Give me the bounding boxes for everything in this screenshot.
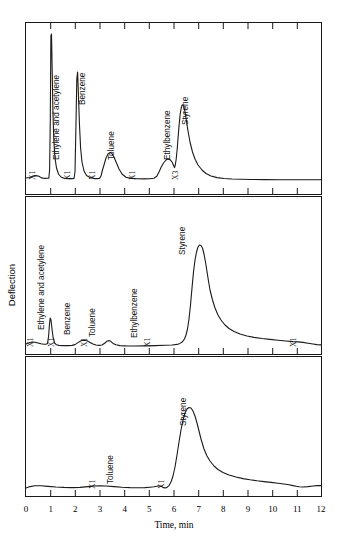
xtick-label: 1 [48, 504, 53, 514]
peak-label-benzene: Benzene [63, 302, 72, 335]
attenuation-label: X1 [157, 480, 166, 489]
xtick-label: 7 [196, 504, 201, 514]
xtick-label: 0 [24, 504, 29, 514]
attenuation-label: X1 [128, 171, 137, 180]
panel-top: Ethylene and acetylene Benzene Toluene E… [26, 23, 322, 195]
xtick-label: 3 [98, 504, 103, 514]
xtick-label: 6 [172, 504, 177, 514]
attenuation-label: X1 [63, 171, 72, 180]
x-axis: 0 1 2 3 4 5 6 7 8 9 10 11 12 Time, min [24, 504, 326, 530]
xtick-label: 11 [293, 504, 302, 514]
panel-bottom-trace [26, 408, 321, 489]
xtick-label: 9 [246, 504, 251, 514]
panel-middle-bottom-ticks [51, 348, 298, 355]
peak-label-ethylene-acetylene: Ethylene and acetylene [52, 74, 61, 160]
xtick-label: 5 [147, 504, 152, 514]
x-axis-label: Time, min [154, 520, 193, 530]
peak-label-toluene: Toluene [107, 131, 116, 160]
xtick-label: 10 [268, 504, 278, 514]
attenuation-label: X1 [88, 480, 97, 489]
attenuation-label: X1 [88, 171, 97, 180]
xtick-label: 2 [73, 504, 78, 514]
y-axis-label: Deflection [6, 264, 17, 306]
peak-label-toluene: Toluene [106, 455, 115, 484]
attenuation-label: X1 [28, 171, 37, 180]
panel-middle-labels: Ethylene and acetylene Benzene Toluene E… [26, 226, 298, 347]
xtick-label: 4 [122, 504, 127, 514]
xtick-label: 12 [317, 504, 326, 514]
peak-label-benzene: Benzene [78, 72, 87, 105]
peak-label-ethylbenzene: Ethylbenzene [163, 110, 172, 160]
attenuation-label: X1 [143, 338, 152, 347]
attenuation-label: X1 [26, 338, 35, 347]
peak-label-ethylbenzene: Ethylbenzene [130, 288, 139, 338]
peak-label-styrene: Styrene [179, 397, 188, 426]
panel-bottom: Toluene Styrene X1 X1 [26, 357, 322, 497]
attenuation-label: X1 [80, 338, 89, 347]
xtick-label: 8 [221, 504, 226, 514]
attenuation-label: X1 [47, 338, 56, 347]
peak-label-toluene: Toluene [88, 308, 97, 337]
panel-top-trace [26, 34, 321, 180]
panel-bottom-axis-ticks [51, 490, 298, 497]
panel-top-top-ticks [51, 23, 298, 30]
panel-top-labels: Ethylene and acetylene Benzene Toluene E… [28, 72, 190, 180]
chromatogram-figure: Ethylene and acetylene Benzene Toluene E… [0, 0, 342, 540]
peak-label-ethylene-acetylene: Ethylene and acetylene [37, 244, 46, 330]
panel-top-frame [26, 23, 322, 195]
peak-label-styrene: Styrene [181, 96, 190, 125]
attenuation-label: X1 [289, 338, 298, 347]
panel-top-bottom-ticks [51, 188, 298, 195]
peak-label-styrene: Styrene [178, 226, 187, 255]
attenuation-label: X3 [171, 171, 180, 180]
chromatogram-svg: Ethylene and acetylene Benzene Toluene E… [0, 0, 342, 540]
panel-middle: Ethylene and acetylene Benzene Toluene E… [6, 197, 322, 355]
